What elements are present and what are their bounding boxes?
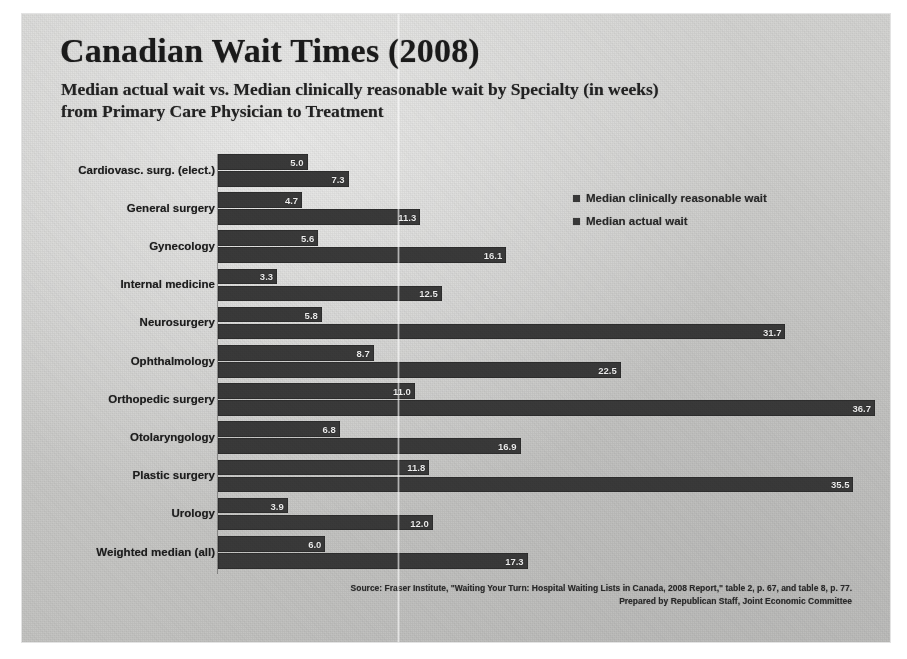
bar-value-label: 12.0 (410, 517, 429, 528)
chart-row: Neurosurgery5.831.7 (22, 307, 890, 340)
category-label: Gynecology (25, 240, 215, 252)
bar-value-label: 31.7 (763, 326, 782, 337)
bar-clinically-reasonable: 5.6 (218, 230, 318, 246)
source-footer: Source: Fraser Institute, "Waiting Your … (351, 582, 852, 608)
scanned-page: Canadian Wait Times (2008) Median actual… (22, 14, 890, 642)
bar-actual-wait: 7.3 (218, 171, 349, 187)
legend-label: Median clinically reasonable wait (586, 192, 767, 204)
bar-value-label: 11.8 (407, 462, 425, 473)
bar-actual-wait: 12.0 (218, 515, 433, 531)
category-label: Urology (25, 507, 215, 519)
bar-value-label: 16.9 (498, 441, 517, 452)
legend-item-clinically-reasonable: Median clinically reasonable wait (573, 192, 767, 204)
legend-item-actual-wait: Median actual wait (573, 215, 767, 227)
bar-value-label: 5.0 (290, 156, 303, 167)
bar-actual-wait: 12.5 (218, 286, 442, 302)
bar-actual-wait: 31.7 (218, 324, 785, 340)
chart-row: Internal medicine3.312.5 (22, 269, 890, 302)
bar-value-label: 16.1 (484, 250, 503, 261)
bar-value-label: 12.5 (419, 288, 438, 299)
bar-clinically-reasonable: 3.9 (218, 498, 288, 514)
bar-value-label: 6.0 (308, 538, 321, 549)
bar-value-label: 36.7 (852, 402, 871, 413)
bar-value-label: 5.8 (305, 309, 318, 320)
screenshot-canvas: Canadian Wait Times (2008) Median actual… (0, 0, 907, 659)
category-label: General surgery (25, 202, 215, 214)
category-label: Neurosurgery (25, 316, 215, 328)
legend-label: Median actual wait (586, 215, 688, 227)
bar-value-label: 22.5 (598, 364, 617, 375)
category-label: Cardiovasc. surg. (elect.) (25, 164, 215, 176)
chart-row: Cardiovasc. surg. (elect.)5.07.3 (22, 154, 890, 187)
category-label: Otolaryngology (25, 431, 215, 443)
legend-swatch-icon (573, 195, 580, 202)
legend-swatch-icon (573, 218, 580, 225)
category-label: Plastic surgery (25, 469, 215, 481)
category-label: Orthopedic surgery (25, 393, 215, 405)
bar-value-label: 5.6 (301, 233, 314, 244)
chart-row: Urology3.912.0 (22, 498, 890, 531)
bar-value-label: 11.0 (393, 385, 411, 396)
bar-chart-plot-area: Cardiovasc. surg. (elect.)5.07.3General … (22, 14, 890, 642)
bar-clinically-reasonable: 8.7 (218, 345, 374, 361)
bar-value-label: 3.3 (260, 271, 273, 282)
bar-value-label: 35.5 (831, 479, 850, 490)
bar-clinically-reasonable: 11.0 (218, 383, 415, 399)
bar-value-label: 7.3 (331, 173, 344, 184)
bar-actual-wait: 11.3 (218, 209, 420, 225)
bar-clinically-reasonable: 5.0 (218, 154, 308, 170)
prepared-by-line: Prepared by Republican Staff, Joint Econ… (351, 595, 852, 608)
chart-row: Orthopedic surgery11.036.7 (22, 383, 890, 416)
bar-clinically-reasonable: 3.3 (218, 269, 277, 285)
bar-value-label: 3.9 (271, 500, 284, 511)
bar-actual-wait: 35.5 (218, 477, 853, 493)
bar-clinically-reasonable: 5.8 (218, 307, 322, 323)
bar-clinically-reasonable: 6.8 (218, 421, 340, 437)
bar-value-label: 4.7 (285, 194, 298, 205)
bar-value-label: 6.8 (323, 424, 336, 435)
category-label: Weighted median (all) (25, 546, 215, 558)
bar-actual-wait: 17.3 (218, 553, 528, 569)
bar-actual-wait: 36.7 (218, 400, 875, 416)
chart-row: Ophthalmology8.722.5 (22, 345, 890, 378)
bar-actual-wait: 16.9 (218, 438, 521, 454)
category-label: Ophthalmology (25, 355, 215, 367)
chart-row: Otolaryngology6.816.9 (22, 421, 890, 454)
category-label: Internal medicine (25, 278, 215, 290)
bar-actual-wait: 16.1 (218, 247, 506, 263)
bar-clinically-reasonable: 4.7 (218, 192, 302, 208)
bar-clinically-reasonable: 11.8 (218, 460, 429, 476)
bar-actual-wait: 22.5 (218, 362, 621, 378)
bar-value-label: 8.7 (357, 347, 370, 358)
source-line: Source: Fraser Institute, "Waiting Your … (351, 582, 852, 595)
chart-row: Plastic surgery11.835.5 (22, 460, 890, 493)
bar-clinically-reasonable: 6.0 (218, 536, 325, 552)
bar-value-label: 11.3 (398, 211, 416, 222)
bar-value-label: 17.3 (505, 555, 524, 566)
chart-legend: Median clinically reasonable wait Median… (573, 192, 767, 238)
chart-row: Weighted median (all)6.017.3 (22, 536, 890, 569)
